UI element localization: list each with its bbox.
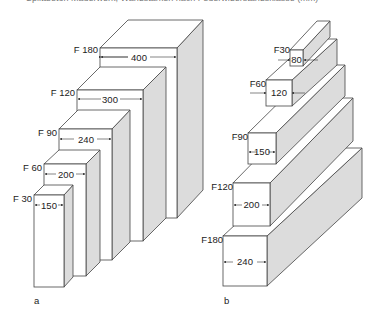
label-b-f30: F30 (274, 44, 290, 55)
label-f30: F 30 (13, 193, 32, 204)
label-f120: F 120 (51, 87, 75, 98)
label-b-f120: F120 (211, 181, 233, 192)
caption-b: b (224, 295, 229, 306)
label-f60: F 60 (23, 162, 42, 173)
label-b-f60: F60 (250, 78, 266, 89)
dim-f60: 200 (58, 169, 74, 180)
label-f90: F 90 (38, 127, 57, 138)
label-f180: F 180 (74, 44, 98, 55)
dim-b-f120: 200 (244, 199, 260, 210)
dim-f180: 400 (131, 52, 147, 63)
dim-f30: 150 (41, 200, 57, 211)
dim-f90: 240 (78, 134, 94, 145)
dim-b-f180: 240 (237, 256, 253, 267)
caption-a: a (34, 295, 40, 306)
dim-f120: 300 (102, 94, 118, 105)
dim-b-f60: 120 (271, 87, 287, 98)
label-b-f180: F180 (201, 234, 223, 245)
fire-resistance-wall-diagram: 400 300 240 200 150 F 180 F 120 F 90 F 6… (0, 0, 375, 317)
dim-b-f30: 80 (291, 54, 302, 65)
label-b-f90: F90 (232, 131, 248, 142)
dim-b-f90: 150 (254, 146, 270, 157)
